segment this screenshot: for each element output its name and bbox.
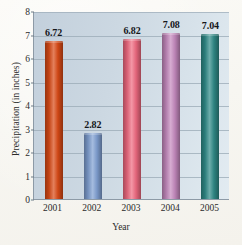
bar-2002	[84, 133, 102, 199]
x-tick-label-2004: 2004	[161, 203, 180, 213]
x-tick-label-2002: 2002	[82, 203, 101, 213]
x-tick-label-2003: 2003	[122, 203, 141, 213]
y-tick-label: 3	[25, 125, 30, 135]
y-tick-label: 7	[25, 31, 30, 41]
y-tick-mark	[31, 12, 34, 13]
y-tick-mark	[31, 59, 34, 60]
y-tick-mark	[31, 153, 34, 154]
y-tick-label: 0	[25, 195, 30, 205]
y-tick-label: 4	[25, 101, 30, 111]
y-tick-mark	[31, 106, 34, 107]
y-tick-label: 5	[25, 78, 30, 88]
y-tick-label: 8	[25, 7, 30, 17]
y-tick-mark	[31, 129, 34, 130]
bar-top-highlight	[123, 39, 141, 41]
bar-chart-figure: Precipitation (in inches) 0123456786.722…	[0, 0, 242, 245]
y-tick-label: 1	[25, 172, 30, 182]
bar-value-label-2004: 7.08	[163, 19, 180, 30]
x-tick-label-2001: 2001	[43, 203, 62, 213]
y-tick-mark	[31, 176, 34, 177]
bar-value-label-2003: 6.82	[123, 25, 140, 36]
bar-value-label-2001: 6.72	[45, 27, 62, 38]
bar-top-highlight	[45, 41, 63, 43]
bar-2001	[45, 41, 63, 199]
gridline	[34, 12, 229, 13]
bar-top-highlight	[84, 133, 102, 135]
bar-2005	[201, 34, 219, 199]
y-axis-title: Precipitation (in inches)	[11, 19, 21, 199]
x-tick-label-2005: 2005	[200, 203, 219, 213]
y-tick-mark	[31, 35, 34, 36]
y-tick-mark	[31, 200, 34, 201]
y-tick-label: 2	[25, 148, 30, 158]
plot-area: 0123456786.722.826.827.087.04	[33, 12, 229, 200]
bar-top-highlight	[201, 34, 219, 36]
y-tick-mark	[31, 82, 34, 83]
x-axis-title: Year	[0, 222, 242, 232]
bar-value-label-2005: 7.04	[202, 20, 219, 31]
bar-2004	[162, 33, 180, 199]
bar-value-label-2002: 2.82	[84, 119, 101, 130]
bar-2003	[123, 39, 141, 199]
bar-top-highlight	[162, 33, 180, 35]
y-tick-label: 6	[25, 54, 30, 64]
